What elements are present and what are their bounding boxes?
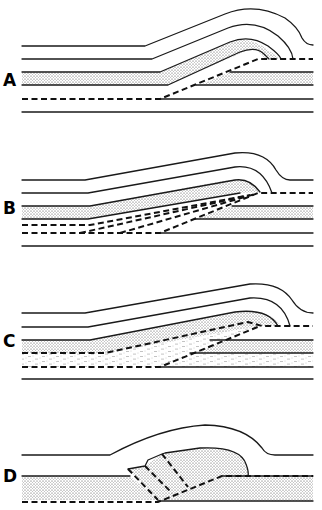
panel-b-layer-1 <box>22 153 313 180</box>
panel-d: D <box>3 425 313 502</box>
panel-label-b: B <box>3 198 16 218</box>
panel-a-layer-1 <box>22 9 313 46</box>
panel-c: C <box>3 284 313 379</box>
panel-label-d: D <box>3 466 17 486</box>
panel-label-c: C <box>3 331 15 351</box>
thrust-fault-diagram: A B C <box>0 0 322 510</box>
panel-b: B <box>3 153 313 246</box>
panel-c-layer-1 <box>22 284 313 313</box>
panel-a: A <box>3 9 313 112</box>
panel-a-stippled-bed-footwall <box>200 72 313 85</box>
panel-label-a: A <box>3 70 17 90</box>
panel-d-upper-surface <box>22 425 313 455</box>
